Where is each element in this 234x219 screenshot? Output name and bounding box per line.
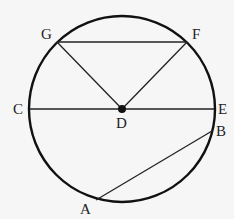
segment-gd bbox=[57, 42, 122, 109]
label-b: B bbox=[216, 123, 226, 139]
label-a: A bbox=[80, 201, 91, 217]
segment-fd bbox=[122, 42, 187, 109]
label-e: E bbox=[218, 101, 227, 117]
label-g: G bbox=[41, 26, 52, 42]
label-f: F bbox=[192, 26, 200, 42]
center-point-d bbox=[118, 105, 126, 113]
label-d: D bbox=[116, 115, 127, 131]
geometry-diagram: G F C E D B A bbox=[0, 0, 234, 219]
label-c: C bbox=[13, 101, 23, 117]
